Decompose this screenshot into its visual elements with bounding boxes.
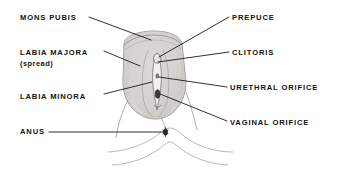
label-urethral-orifice: URETHRAL ORIFICE bbox=[230, 83, 318, 93]
leader-mons-pubis bbox=[89, 17, 151, 40]
label-labia-majora-note: (spread) bbox=[20, 59, 53, 69]
anatomical-figure: MONS PUBIS LABIA MAJORA (spread) LABIA M… bbox=[0, 0, 340, 184]
label-prepuce: PREPUCE bbox=[232, 13, 275, 23]
thigh-contour-lines bbox=[108, 128, 233, 165]
label-vaginal-orifice: VAGINAL ORIFICE bbox=[230, 118, 309, 128]
label-mons-pubis: MONS PUBIS bbox=[20, 13, 77, 23]
label-labia-minora: LABIA MINORA bbox=[20, 92, 86, 102]
label-anus: ANUS bbox=[20, 127, 45, 137]
vulva-body bbox=[118, 28, 192, 124]
label-clitoris: CLITORIS bbox=[232, 48, 274, 58]
label-labia-majora: LABIA MAJORA bbox=[20, 48, 88, 58]
